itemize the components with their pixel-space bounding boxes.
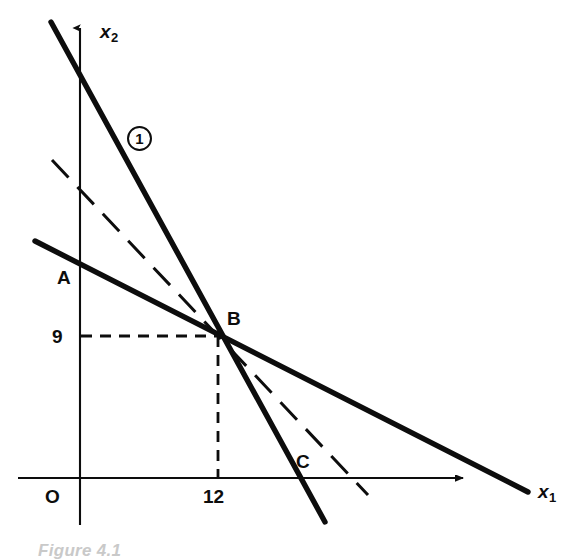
plot-canvas: [0, 0, 580, 560]
x-axis-label-text: x: [538, 481, 549, 502]
y-axis-label-subscript: 2: [111, 30, 118, 45]
point-label-c: C: [296, 452, 310, 471]
constraint-1-badge: 1: [127, 126, 152, 151]
y-axis-label: x2: [100, 22, 118, 44]
x-axis-label-subscript: 1: [549, 490, 556, 505]
figure-container: x2 x1 1 A B C O 9 12 Figure 4.1: [0, 0, 580, 560]
point-label-a: A: [57, 268, 71, 287]
constraint-line-2: [35, 241, 528, 492]
objective-function-line: [52, 160, 368, 495]
point-label-b: B: [227, 309, 241, 328]
x-tick-label-12: 12: [203, 487, 224, 506]
figure-caption: Figure 4.1: [38, 541, 121, 560]
origin-label: O: [45, 487, 60, 506]
y-axis-label-text: x: [100, 21, 111, 42]
y-tick-label-9: 9: [52, 327, 63, 346]
constraint-1-badge-text: 1: [135, 130, 143, 147]
x-axis-label: x1: [538, 482, 556, 504]
